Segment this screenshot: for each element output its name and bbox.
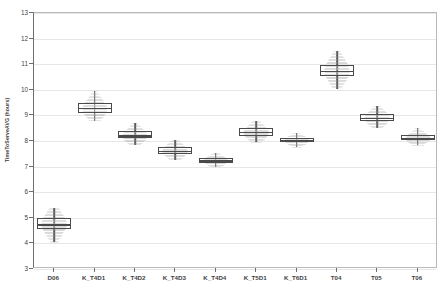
gridline (34, 167, 436, 168)
gridline (34, 39, 436, 40)
y-tick-mark (29, 63, 33, 64)
median-line (37, 224, 71, 225)
x-tick-mark (53, 268, 54, 272)
x-tick-label: T06 (411, 274, 422, 281)
y-tick-label: 8 (6, 137, 28, 144)
gridline (34, 218, 436, 219)
y-tick-mark (29, 217, 33, 218)
median-line (401, 138, 435, 139)
median-line (118, 135, 152, 136)
median-line (360, 118, 394, 119)
median-line (320, 71, 354, 72)
y-tick-mark (29, 140, 33, 141)
y-tick-mark (29, 191, 33, 192)
x-tick-mark (174, 268, 175, 272)
x-tick-label: D06 (48, 274, 59, 281)
y-tick-mark (29, 242, 33, 243)
x-axis-ticks (33, 268, 437, 273)
y-tick-mark (29, 114, 33, 115)
x-tick-mark (376, 268, 377, 272)
boxplot-chart: TimeToServeAVG (hours) 345678910111213 D… (0, 0, 448, 295)
median-line (199, 160, 233, 161)
y-axis-tick-labels: 345678910111213 (5, 12, 28, 268)
y-tick-label: 6 (6, 188, 28, 195)
x-tick-label: K_T5D1 (244, 274, 267, 281)
x-tick-mark (94, 268, 95, 272)
y-tick-mark (29, 12, 33, 13)
y-tick-mark (29, 166, 33, 167)
gridline (34, 13, 436, 14)
gridline (34, 243, 436, 244)
y-tick-label: 11 (6, 60, 28, 67)
y-tick-label: 10 (6, 85, 28, 92)
x-tick-mark (296, 268, 297, 272)
y-tick-label: 7 (6, 162, 28, 169)
x-tick-label: K_T4D3 (163, 274, 186, 281)
y-tick-label: 3 (6, 265, 28, 272)
y-tick-label: 5 (6, 213, 28, 220)
x-tick-label: T05 (371, 274, 382, 281)
x-axis-tick-labels: D06K_T4D1K_T4D2K_T4D3K_T4D4K_T5D1K_T6D1T… (33, 274, 437, 288)
y-tick-label: 4 (6, 239, 28, 246)
x-tick-mark (336, 268, 337, 272)
y-tick-label: 9 (6, 111, 28, 118)
x-tick-label: K_T6D1 (284, 274, 307, 281)
y-tick-label: 13 (6, 9, 28, 16)
x-tick-mark (215, 268, 216, 272)
x-tick-mark (255, 268, 256, 272)
y-tick-mark (29, 89, 33, 90)
gridline (34, 192, 436, 193)
median-line (280, 140, 314, 141)
x-tick-mark (134, 268, 135, 272)
gridline (34, 141, 436, 142)
y-tick-mark (29, 38, 33, 39)
x-tick-label: K_T4D2 (122, 274, 145, 281)
median-line (78, 108, 112, 109)
median-line (239, 132, 273, 133)
x-tick-label: K_T4D1 (82, 274, 105, 281)
x-tick-label: T04 (331, 274, 342, 281)
x-tick-mark (417, 268, 418, 272)
y-tick-label: 12 (6, 34, 28, 41)
gridline (34, 64, 436, 65)
plot-area (33, 12, 437, 268)
x-tick-label: K_T4D4 (203, 274, 226, 281)
median-line (158, 151, 192, 152)
